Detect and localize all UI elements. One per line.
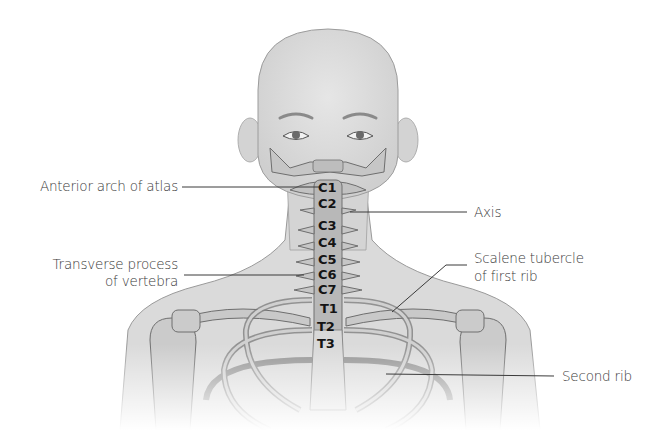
anatomy-diagram: C1 C2 C3 C4 C5 C6 C7 T1 T2 T3 Anterior a… xyxy=(0,0,672,430)
label-transverse-process-line2: of vertebra xyxy=(0,273,178,290)
label-transverse-process-line1: Transverse process xyxy=(0,256,178,273)
vertebra-label-t2: T2 xyxy=(317,320,335,333)
anatomy-illustration xyxy=(0,0,672,430)
vertebra-label-c2: C2 xyxy=(318,197,337,210)
vertebra-label-c7: C7 xyxy=(318,283,337,296)
vertebra-label-c1: C1 xyxy=(318,181,337,194)
vertebra-label-t3: T3 xyxy=(317,337,335,350)
vertebra-label-c6: C6 xyxy=(318,268,337,281)
label-second-rib: Second rib xyxy=(562,368,632,385)
vertebra-label-c3: C3 xyxy=(318,219,337,232)
vertebra-label-t1: T1 xyxy=(320,302,338,315)
label-scalene-tubercle-line1: Scalene tubercle xyxy=(474,250,584,267)
vertebra-label-c5: C5 xyxy=(318,253,337,266)
label-scalene-tubercle-line2: of first rib xyxy=(474,268,537,285)
label-anterior-arch-of-atlas: Anterior arch of atlas xyxy=(0,178,178,195)
label-axis: Axis xyxy=(474,204,501,221)
vertebra-label-c4: C4 xyxy=(318,236,337,249)
